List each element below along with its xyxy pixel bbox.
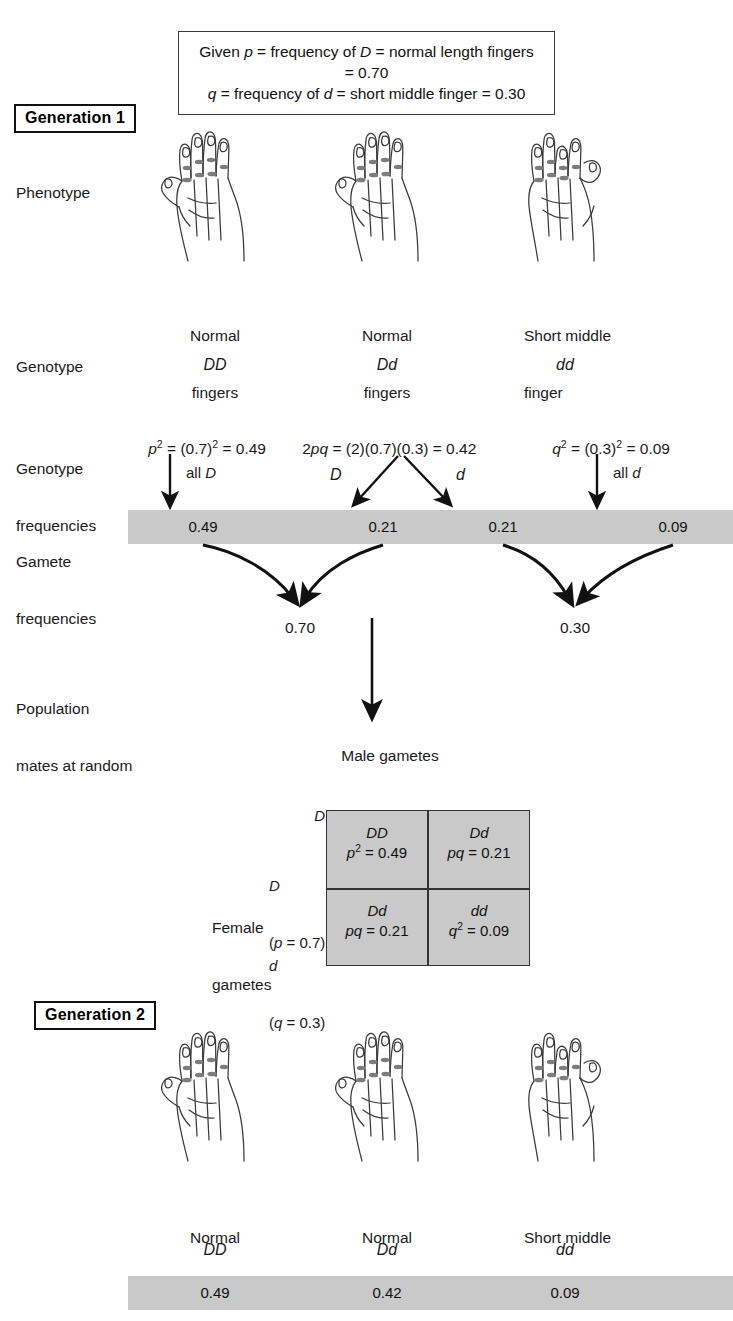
phenotype-1-line2: fingers: [160, 383, 270, 402]
hand-illustration-4: [148, 1018, 278, 1163]
phenotype-2-line2: fingers: [332, 383, 442, 402]
hand-illustration-1: [148, 118, 278, 263]
D-symbol: D: [360, 43, 371, 60]
gen2-frequency-value-1: 0.49: [200, 1284, 229, 1301]
svg-text:D: D: [330, 466, 342, 483]
allele-pooling-arrows: [0, 543, 733, 613]
genotype-2: Dd: [332, 355, 442, 374]
punnett-cell-Dd-bottom: Dd pq = 0.21: [327, 901, 427, 941]
gamete-bar-value-1: 0.49: [188, 518, 217, 535]
q-value: 0.30: [495, 85, 525, 102]
row-label-genotype: Genotype: [16, 357, 83, 376]
phenotype-1-line1: Normal: [160, 326, 270, 345]
generation-1-badge: Generation 1: [14, 104, 136, 133]
punnett-cell-dd: dd q2 = 0.09: [429, 901, 529, 941]
male-gametes-title: Male gametes: [300, 746, 480, 765]
p-trait: normal length fingers: [389, 43, 534, 60]
gen2-frequency-value-2: 0.42: [372, 1284, 401, 1301]
female-gametes-line2: gametes: [212, 975, 271, 994]
q-symbol: q: [208, 85, 217, 102]
punnett-row-d-allele: d: [269, 956, 325, 975]
svg-text:all d: all d: [613, 464, 641, 481]
punnett-horizontal-divider: [327, 888, 529, 890]
punnett-cell-DD-freq: p2 = 0.49: [327, 843, 427, 863]
punnett-cell-Dd-top: Dd pq = 0.21: [429, 823, 529, 863]
svg-text:d: d: [456, 466, 466, 483]
punnett-cell-dd-freq: q2 = 0.09: [429, 921, 529, 941]
given-conditions-box: Given p = frequency of D = normal length…: [178, 31, 555, 115]
population-label-line2: mates at random: [16, 756, 132, 775]
given-line-1: Given p = frequency of D = normal length…: [193, 41, 540, 83]
genotype-3: dd: [510, 355, 620, 374]
freq-word-2: frequency of: [234, 85, 319, 102]
female-gametes-line1: Female: [212, 918, 271, 937]
hand-illustration-6-short-middle: [496, 1018, 626, 1163]
hand-illustration-2: [322, 118, 452, 263]
phenotype-2-line1: Normal: [332, 326, 442, 345]
gen2-genotype-1: DD: [160, 1240, 270, 1259]
punnett-cell-Dd-top-genotype: Dd: [429, 823, 529, 843]
gen2-genotype-3: dd: [510, 1240, 620, 1259]
gen2-frequency-bar: 0.49 0.42 0.09: [128, 1276, 733, 1310]
punnett-cell-Dd-bottom-freq: pq = 0.21: [327, 921, 427, 941]
random-mating-arrow: [0, 614, 733, 724]
hand-illustration-5: [322, 1018, 452, 1163]
punnett-cell-Dd-bottom-genotype: Dd: [327, 901, 427, 921]
gamete-frequency-bar: 0.49 0.21 0.21 0.09: [128, 510, 733, 544]
diagram-canvas: Given p = frequency of D = normal length…: [0, 0, 733, 1321]
given-word: Given: [199, 43, 240, 60]
given-line-2: q = frequency of d = short middle finger…: [193, 83, 540, 104]
punnett-row-D-allele: D: [269, 876, 325, 895]
d-symbol: d: [324, 85, 333, 102]
svg-text:all D: all D: [186, 464, 216, 481]
gamete-bar-value-4: 0.09: [658, 518, 687, 535]
row-label-phenotype: Phenotype: [16, 183, 90, 202]
phenotype-3-line1: Short middle: [524, 326, 654, 345]
generation-2-badge: Generation 2: [34, 1001, 156, 1030]
q-trait: short middle finger: [350, 85, 478, 102]
gamete-bar-value-3: 0.21: [488, 518, 517, 535]
phenotype-3-line2: finger: [524, 383, 654, 402]
p-symbol: p: [244, 43, 253, 60]
hand-illustration-3-short-middle: [496, 118, 626, 263]
punnett-cell-DD-genotype: DD: [327, 823, 427, 843]
punnett-cell-Dd-top-freq: pq = 0.21: [429, 843, 529, 863]
gen2-frequency-value-3: 0.09: [550, 1284, 579, 1301]
gen2-genotype-2: Dd: [332, 1240, 442, 1259]
punnett-cell-dd-genotype: dd: [429, 901, 529, 921]
gamete-bar-value-2: 0.21: [368, 518, 397, 535]
female-gametes-title: Female gametes: [212, 880, 271, 1032]
p-value: 0.70: [358, 64, 388, 81]
punnett-square: DD p2 = 0.49 Dd pq = 0.21 Dd pq = 0.21 d…: [326, 810, 530, 966]
punnett-cell-DD: DD p2 = 0.49: [327, 823, 427, 863]
freq-word-1: frequency of: [270, 43, 355, 60]
genotype-1: DD: [160, 355, 270, 374]
gamete-production-arrows: all D D d all d: [0, 440, 733, 520]
